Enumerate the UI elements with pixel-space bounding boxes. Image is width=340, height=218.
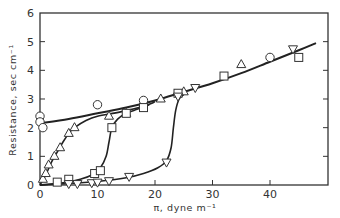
y-tick-label: 4 (27, 64, 34, 77)
triangle-down-marker (289, 46, 298, 54)
x-axis-label: π, dyne m⁻¹ (154, 202, 217, 213)
ticks (40, 42, 328, 185)
circle-marker (39, 123, 47, 131)
triangle-up-marker (56, 143, 65, 151)
y-tick-label: 2 (27, 122, 34, 135)
y-tick-label: 3 (27, 93, 34, 106)
y-tick-labels: 0123456 (27, 7, 34, 192)
curves (40, 43, 316, 185)
x-tick-label: 0 (37, 188, 44, 201)
x-tick-label: 40 (263, 188, 277, 201)
triangle-down-curve (40, 95, 184, 185)
square-marker (140, 104, 148, 112)
triangle-up-marker (237, 60, 246, 68)
y-tick-label: 1 (27, 150, 34, 163)
square-marker (96, 167, 104, 175)
circle-marker (266, 53, 274, 61)
square-marker (53, 178, 61, 186)
plot-frame (40, 13, 328, 185)
chart: 0123456 010203040 π, dyne m⁻¹ Resistance… (0, 0, 340, 218)
y-axis-label: Resistance, sec cm⁻¹ (7, 44, 18, 156)
x-tick-label: 30 (206, 188, 220, 201)
square-marker (220, 72, 228, 80)
y-tick-label: 6 (27, 7, 34, 20)
triangle-up-marker (70, 123, 79, 131)
y-tick-label: 0 (27, 179, 34, 192)
x-tick-label: 20 (148, 188, 162, 201)
x-tick-labels: 010203040 (37, 188, 278, 201)
upper-linear-curve (40, 43, 316, 123)
square-marker (122, 109, 130, 117)
y-tick-label: 5 (27, 36, 34, 49)
x-tick-label: 10 (91, 188, 105, 201)
square-marker (108, 124, 116, 132)
square-marker (295, 53, 303, 61)
circle-marker (93, 101, 101, 109)
